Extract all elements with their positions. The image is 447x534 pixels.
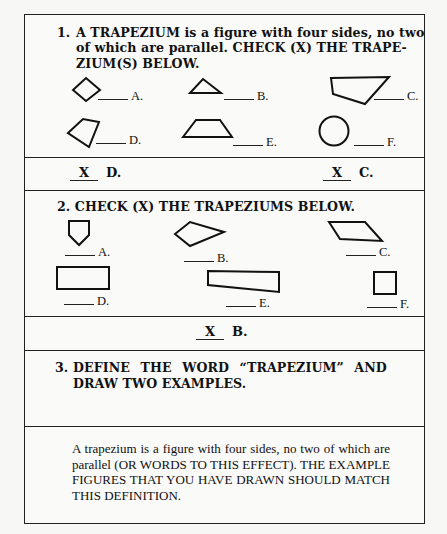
triangle-icon [189,77,225,97]
question-text-line: ZIUM(S) BELOW. [76,56,199,71]
rectangle-icon [55,265,111,291]
question-text: 2. CHECK (X) THE TRAPEZIUMS BELOW. [57,199,355,214]
answer-blank[interactable] [64,294,94,305]
question-text-line: A TRAPEZIUM is a figure with four sides,… [76,25,424,40]
option-c[interactable]: C. [374,89,418,104]
circle-icon [318,115,352,147]
answer-blank[interactable] [224,89,254,100]
answer-blank[interactable] [354,135,384,146]
divider [24,350,425,351]
question-text-line: of which are parallel. CHECK (X) THE TRA… [76,40,407,55]
option-f[interactable]: F. [354,135,396,150]
answer-blank[interactable] [346,245,376,256]
option-e[interactable]: E. [233,135,277,150]
answer-item: XC. [323,165,374,181]
answer-blank[interactable] [233,135,263,146]
isosceles-trapezoid-icon [182,118,234,140]
divider [24,157,425,158]
question-text-line: DEFINE THE WORD “TRAPEZIUM” AND [73,360,387,375]
divider [24,316,425,317]
option-d[interactable]: D. [64,294,109,309]
option-e[interactable]: E. [226,296,270,311]
option-b[interactable]: B. [224,89,268,104]
pentagon-icon [67,219,91,247]
option-f[interactable]: F. [367,297,409,312]
question-number: 3. [55,360,68,375]
option-d[interactable]: D. [96,133,141,148]
answer-blank[interactable] [367,297,397,308]
question-text-line: DRAW TWO EXAMPLES. [73,376,246,391]
trapezoid-icon [206,269,282,295]
answer-blank[interactable] [226,296,256,307]
answer-blank[interactable] [65,245,95,256]
option-a[interactable]: A. [98,89,143,104]
irregular-quadrilateral-icon [173,220,227,248]
option-a[interactable]: A. [65,245,110,260]
answer-item: XB. [196,324,248,340]
answer-blank[interactable] [98,89,128,100]
option-b[interactable]: B. [184,251,228,266]
question-number: 1. [57,25,70,40]
answer-blank[interactable] [96,133,126,144]
answer-blank[interactable] [374,89,404,100]
option-c[interactable]: C. [346,245,390,260]
answer-item: XD. [70,165,121,181]
answer-3-definition: A trapezium is a figure with four sides,… [72,441,390,503]
answer-blank[interactable] [184,251,214,262]
divider [24,190,425,191]
square-icon [372,270,398,296]
divider [24,426,425,427]
parallelogram-icon [327,220,385,244]
